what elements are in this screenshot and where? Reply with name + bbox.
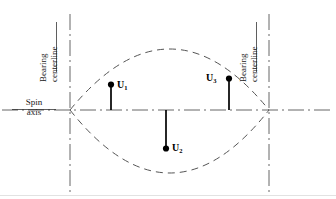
bearing-centerline-left-label-line2: centerline <box>49 47 59 82</box>
vector-u3-tip-dot <box>226 75 232 81</box>
bearing-centerline-left-label-line1: Bearing <box>38 54 48 83</box>
spin-axis-label: Spin axis <box>8 98 60 118</box>
vector-u2-label: U2 <box>172 142 182 153</box>
vector-u1-label: U1 <box>117 79 127 90</box>
mode-shape-lower-arc <box>70 110 269 173</box>
bearing-centerline-right-label-line2: centerline <box>249 47 259 82</box>
vector-u3-label-subscript: 3 <box>213 77 216 84</box>
spin-axis-label-line1: Spin <box>8 98 60 107</box>
vector-u1 <box>108 81 114 110</box>
vector-u1-label-subscript: 1 <box>124 84 127 91</box>
vector-u2 <box>163 110 169 152</box>
vector-u1-tip-dot <box>108 81 114 87</box>
vector-u2-tip-dot <box>163 145 169 151</box>
vector-u2-label-subscript: 2 <box>179 147 182 154</box>
bearing-centerline-right-label-line1: Bearing <box>238 54 248 83</box>
vector-u3 <box>226 75 232 110</box>
spin-axis-label-line2: axis <box>8 107 60 117</box>
vector-u3-label: U3 <box>206 72 216 83</box>
figure-container: Spin axis Bearing centerline Bearing cen… <box>0 0 336 199</box>
